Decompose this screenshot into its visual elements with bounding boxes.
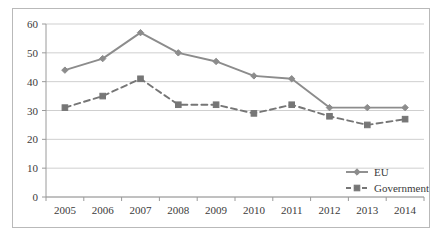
data-point-marker-government-2009 [213, 102, 219, 108]
data-point-marker-government-2013 [365, 122, 371, 128]
y-tick-label: 40 [27, 76, 39, 88]
x-tick-label: 2014 [394, 204, 417, 216]
y-tick-label: 0 [33, 191, 39, 203]
y-tick-label: 60 [27, 18, 39, 30]
x-tick-label: 2006 [92, 204, 115, 216]
x-tick-label: 2007 [130, 204, 153, 216]
series-line-eu [65, 33, 405, 108]
chart-legend: EUGovernment [346, 166, 429, 194]
y-tick-labels: 0102030405060 [27, 18, 39, 203]
axes [42, 24, 424, 201]
x-tick-label: 2008 [167, 204, 190, 216]
data-series-layer [62, 29, 409, 127]
y-tick-label: 10 [27, 162, 39, 174]
x-tick-label: 2010 [243, 204, 266, 216]
x-tick-label: 2011 [281, 204, 303, 216]
data-point-marker-eu-2014 [402, 104, 408, 110]
data-point-marker-government-2005 [62, 105, 68, 111]
y-tick-label: 50 [27, 47, 39, 59]
data-point-marker-eu-2010 [251, 73, 257, 79]
data-point-marker-legend-government [354, 185, 360, 191]
data-point-marker-government-2014 [402, 116, 408, 122]
data-point-marker-government-2011 [289, 102, 295, 108]
data-point-marker-eu-2005 [62, 67, 68, 73]
chart-container: 0102030405060 20052006200720082009201020… [0, 0, 444, 239]
y-tick-label: 30 [27, 105, 39, 117]
legend-label-government: Government [374, 182, 429, 194]
x-tick-label: 2012 [319, 204, 341, 216]
data-point-marker-government-2010 [251, 111, 257, 117]
data-point-marker-eu-2013 [364, 104, 370, 110]
data-point-marker-eu-2009 [213, 58, 219, 64]
series-line-government [65, 79, 405, 125]
x-tick-label: 2009 [205, 204, 228, 216]
x-tick-label: 2005 [54, 204, 77, 216]
x-tick-labels: 2005200620072008200920102011201220132014 [54, 204, 417, 216]
data-point-marker-government-2006 [100, 93, 106, 99]
x-tick-label: 2013 [356, 204, 379, 216]
data-point-marker-legend-eu [354, 169, 360, 175]
data-point-marker-government-2007 [138, 76, 144, 82]
legend-label-eu: EU [374, 166, 389, 178]
line-chart: 0102030405060 20052006200720082009201020… [0, 0, 444, 239]
data-point-marker-government-2008 [176, 102, 182, 108]
data-point-marker-government-2012 [327, 113, 333, 119]
y-tick-label: 20 [27, 133, 39, 145]
